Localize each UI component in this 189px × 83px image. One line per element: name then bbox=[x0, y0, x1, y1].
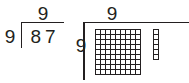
unit-square bbox=[111, 70, 115, 74]
unit-square bbox=[111, 55, 115, 59]
unit-square bbox=[154, 55, 158, 59]
unit-square bbox=[101, 35, 105, 39]
unit-square bbox=[116, 55, 120, 59]
unit-square bbox=[106, 40, 110, 44]
unit-square bbox=[136, 60, 140, 64]
unit-square bbox=[106, 50, 110, 54]
unit-square bbox=[116, 70, 120, 74]
unit-square bbox=[131, 70, 135, 74]
divisor-value: 9 bbox=[1, 27, 19, 46]
unit-square-grid bbox=[95, 29, 141, 75]
unit-square bbox=[136, 70, 140, 74]
unit-square bbox=[106, 60, 110, 64]
unit-square bbox=[131, 60, 135, 64]
dividend-value: 87 bbox=[25, 27, 61, 46]
unit-square bbox=[116, 45, 120, 49]
unit-square bbox=[106, 65, 110, 69]
unit-square bbox=[121, 70, 125, 74]
unit-square bbox=[126, 30, 130, 34]
area-model-side-label: 9 bbox=[72, 36, 90, 55]
unit-square bbox=[101, 70, 105, 74]
unit-square bbox=[101, 55, 105, 59]
unit-square bbox=[111, 45, 115, 49]
unit-square bbox=[121, 40, 125, 44]
unit-square bbox=[111, 65, 115, 69]
unit-square bbox=[121, 35, 125, 39]
unit-square bbox=[131, 65, 135, 69]
unit-square bbox=[126, 65, 130, 69]
unit-square bbox=[111, 50, 115, 54]
unit-square bbox=[131, 40, 135, 44]
unit-square bbox=[96, 35, 100, 39]
area-model-top-label: 9 bbox=[102, 4, 122, 23]
unit-square bbox=[96, 60, 100, 64]
unit-square bbox=[101, 30, 105, 34]
unit-square bbox=[154, 35, 158, 39]
unit-square bbox=[96, 65, 100, 69]
area-bracket-vertical-icon bbox=[83, 22, 85, 80]
math-diagram: 9 9 87 9 9 bbox=[0, 0, 189, 83]
unit-square bbox=[121, 60, 125, 64]
unit-square bbox=[136, 65, 140, 69]
unit-square bbox=[101, 60, 105, 64]
unit-square bbox=[126, 40, 130, 44]
unit-square bbox=[111, 35, 115, 39]
unit-square bbox=[96, 55, 100, 59]
unit-square bbox=[154, 40, 158, 44]
unit-square bbox=[121, 30, 125, 34]
unit-square bbox=[154, 30, 158, 34]
unit-square bbox=[116, 50, 120, 54]
area-bracket-horizontal-icon bbox=[83, 22, 189, 23]
unit-square bbox=[116, 30, 120, 34]
unit-square bbox=[106, 70, 110, 74]
unit-square bbox=[126, 45, 130, 49]
unit-square bbox=[96, 30, 100, 34]
unit-square bbox=[101, 65, 105, 69]
unit-square bbox=[131, 35, 135, 39]
unit-square bbox=[131, 30, 135, 34]
unit-square bbox=[131, 50, 135, 54]
unit-square bbox=[106, 35, 110, 39]
unit-square bbox=[136, 35, 140, 39]
unit-square bbox=[126, 55, 130, 59]
unit-square bbox=[101, 50, 105, 54]
unit-square bbox=[96, 45, 100, 49]
unit-square bbox=[101, 45, 105, 49]
unit-square bbox=[136, 55, 140, 59]
unit-square bbox=[154, 45, 158, 49]
unit-square bbox=[111, 40, 115, 44]
unit-square bbox=[96, 70, 100, 74]
unit-square bbox=[116, 65, 120, 69]
long-division-figure: 9 9 87 bbox=[0, 0, 72, 58]
unit-square bbox=[136, 40, 140, 44]
unit-square bbox=[136, 50, 140, 54]
unit-square bbox=[121, 50, 125, 54]
division-bracket-horizontal-icon bbox=[21, 22, 64, 23]
unit-square bbox=[116, 40, 120, 44]
division-bracket-vertical-icon bbox=[21, 22, 22, 48]
unit-square bbox=[131, 45, 135, 49]
unit-square bbox=[121, 65, 125, 69]
unit-square bbox=[154, 50, 158, 54]
unit-square bbox=[116, 60, 120, 64]
unit-square bbox=[101, 40, 105, 44]
unit-square bbox=[126, 35, 130, 39]
unit-square bbox=[106, 30, 110, 34]
unit-square bbox=[131, 55, 135, 59]
unit-square bbox=[106, 45, 110, 49]
unit-square bbox=[126, 70, 130, 74]
unit-square bbox=[106, 55, 110, 59]
unit-square bbox=[121, 55, 125, 59]
unit-square bbox=[96, 50, 100, 54]
quotient-value: 9 bbox=[33, 4, 53, 23]
unit-square bbox=[136, 30, 140, 34]
unit-square bbox=[136, 45, 140, 49]
area-model-figure: 9 9 bbox=[72, 0, 189, 83]
remainder-unit-strip bbox=[153, 29, 159, 60]
unit-square bbox=[111, 30, 115, 34]
unit-square bbox=[111, 60, 115, 64]
unit-square bbox=[96, 40, 100, 44]
unit-square bbox=[126, 60, 130, 64]
unit-square bbox=[126, 50, 130, 54]
unit-square bbox=[116, 35, 120, 39]
